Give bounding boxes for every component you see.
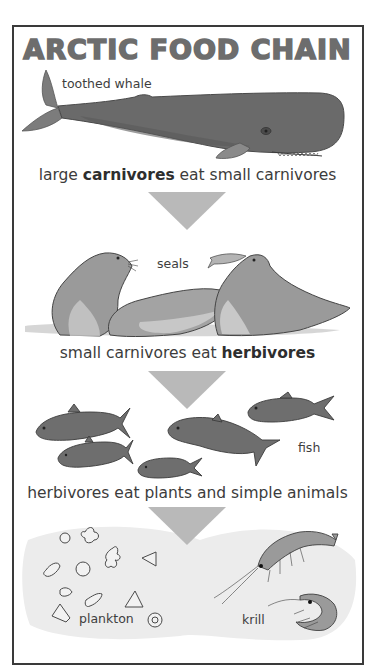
down-arrow-icon [148, 507, 226, 545]
krill-label: krill [242, 612, 265, 628]
